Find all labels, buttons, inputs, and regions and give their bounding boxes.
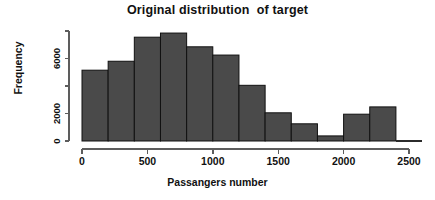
plot-area: 020006000 05001000150020002500: [0, 0, 435, 200]
y-tick-label: 0: [51, 138, 62, 143]
histogram-bar: [187, 47, 213, 141]
histogram-bar: [317, 136, 343, 141]
histogram-figure: Original distribution of target Frequenc…: [0, 0, 435, 200]
x-tick-label: 0: [79, 155, 85, 167]
histogram-bar: [291, 124, 317, 141]
x-tick-labels: 05001000150020002500: [79, 155, 421, 167]
x-tick-label: 2000: [332, 155, 356, 167]
histogram-bar: [160, 33, 186, 141]
histogram-bar: [370, 107, 396, 141]
x-axis: [82, 149, 409, 154]
histogram-bar: [108, 61, 134, 141]
x-tick-label: 500: [139, 155, 157, 167]
histogram-bar: [82, 70, 108, 141]
histogram-bar: [213, 55, 239, 141]
x-tick-label: 1500: [267, 155, 291, 167]
y-tick-labels: 020006000: [51, 48, 62, 144]
y-tick-label: 2000: [51, 103, 62, 124]
y-axis: [65, 31, 70, 141]
y-tick-label: 6000: [51, 48, 62, 69]
histogram-bar: [239, 85, 265, 141]
histogram-bar: [134, 37, 160, 141]
bars-group: [82, 33, 396, 141]
x-tick-label: 2500: [397, 155, 421, 167]
x-tick-label: 1000: [201, 155, 225, 167]
histogram-bar: [344, 114, 370, 141]
histogram-bar: [265, 113, 291, 141]
